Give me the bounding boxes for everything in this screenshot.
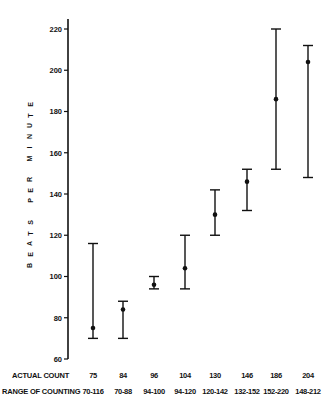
y-label-letter: E [25, 252, 34, 257]
range-cell: 148-212 [295, 387, 320, 396]
data-point [91, 326, 96, 331]
range-of-counting-label: RANGE OF COUNTING [2, 387, 80, 396]
y-label-letter: R [26, 177, 35, 182]
error-bar-chart: 6080100120140160180200220 [0, 0, 328, 404]
error-bar [271, 29, 281, 169]
y-label-letter [25, 211, 34, 213]
y-tick-label: 100 [49, 272, 62, 281]
error-bar [149, 277, 159, 289]
data-point [213, 212, 218, 217]
y-tick-label: 200 [49, 66, 62, 75]
range-cell: 152-220 [263, 387, 288, 396]
y-label-letter: N [26, 134, 35, 139]
data-point [183, 266, 188, 271]
data-point [152, 282, 157, 287]
actual-count-cell: 130 [209, 371, 221, 380]
y-label-letter: T [26, 231, 35, 235]
y-label-letter: E [25, 102, 34, 107]
range-cell: 70-116 [82, 387, 103, 396]
y-label-letter: P [25, 199, 34, 204]
actual-count-cell: 84 [119, 371, 127, 380]
data-point [245, 179, 250, 184]
actual-count-cell: 104 [179, 371, 191, 380]
y-tick-label: 140 [49, 190, 62, 199]
y-label-letter: A [26, 241, 35, 246]
y-label-letter: M [26, 155, 35, 161]
error-bar [88, 244, 98, 339]
y-label-letter: U [26, 123, 35, 128]
error-bar [118, 301, 128, 338]
actual-count-cell: 186 [270, 371, 282, 380]
y-axis-label: BEATS PER MINUTE [22, 100, 38, 270]
range-cell: 94-120 [174, 387, 196, 396]
error-bars [88, 29, 313, 338]
actual-count-cell: 204 [302, 371, 314, 380]
y-label-letter: S [25, 220, 34, 225]
data-point [274, 97, 279, 102]
actual-count-cell: 75 [89, 371, 97, 380]
error-bar [180, 235, 190, 289]
data-point [121, 307, 126, 312]
y-tick-label: 60 [54, 355, 62, 364]
error-bar [303, 46, 313, 178]
data-point [306, 60, 311, 65]
actual-count-label: ACTUAL COUNT [12, 371, 69, 380]
range-cell: 132-152 [234, 387, 259, 396]
y-tick-label: 120 [49, 231, 62, 240]
y-label-letter [25, 168, 34, 170]
y-label-letter: E [25, 188, 34, 193]
error-bar [210, 190, 220, 235]
range-cell: 120-142 [202, 387, 227, 396]
y-axis: 6080100120140160180200220 [49, 19, 68, 364]
y-label-letter: T [26, 113, 35, 117]
y-tick-label: 180 [49, 107, 62, 116]
actual-count-cell: 96 [150, 371, 158, 380]
y-label-letter: I [25, 146, 34, 148]
y-tick-label: 220 [49, 25, 62, 34]
range-cell: 70-88 [114, 387, 132, 396]
range-cell: 94-100 [143, 387, 165, 396]
y-tick-label: 160 [49, 149, 62, 158]
error-bar [242, 169, 252, 210]
actual-count-cell: 146 [241, 371, 253, 380]
y-tick-label: 80 [54, 314, 62, 323]
y-label-letter: B [26, 263, 35, 268]
